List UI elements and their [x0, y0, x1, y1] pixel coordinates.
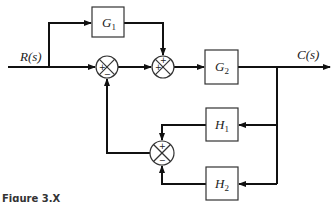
sum3-to-sum1-line: [107, 79, 150, 153]
sum3-sign-top: +: [159, 142, 166, 151]
feedforward-branch-to-g1: [49, 23, 91, 67]
figure-caption: Figure 3.X: [2, 193, 60, 202]
g1-output-line: [124, 23, 163, 55]
h2-output-line: [162, 166, 206, 184]
sum2-sign-left: +: [155, 63, 162, 72]
input-label: R(s): [19, 49, 42, 64]
block-diagram: G1 G2 H1 H2 R(s) C(s) + − + + + −: [0, 0, 333, 202]
output-label: C(s): [297, 47, 319, 62]
sum3-sign-bottom: −: [159, 156, 166, 165]
sum1-sign-bottom: −: [104, 70, 111, 79]
h1-output-line: [162, 125, 206, 140]
